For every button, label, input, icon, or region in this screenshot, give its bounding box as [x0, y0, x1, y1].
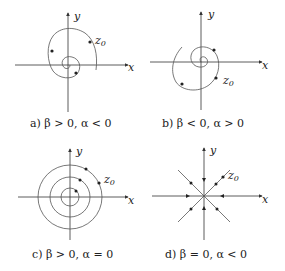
- phase-portrait-figure: x y z0 a) β > 0, α < 0 x y z0 b) β < 0, …: [0, 0, 285, 271]
- trajectory-arrow: [75, 190, 78, 193]
- caption-b: b) β < 0, α > 0: [162, 117, 244, 130]
- z0-point: [97, 181, 100, 184]
- caption-a: a) β > 0, α < 0: [30, 117, 112, 130]
- inward-arrow: [216, 208, 219, 211]
- z0-label: z0: [94, 34, 106, 48]
- z0-point: [88, 40, 91, 43]
- y-axis-label: y: [207, 8, 215, 21]
- z0-label: z0: [103, 173, 115, 187]
- inward-arrow: [190, 208, 193, 211]
- z0-point: [214, 76, 217, 79]
- panel-a: x y z0 a) β > 0, α < 0: [15, 10, 135, 130]
- spiral-inward-curve: [48, 28, 96, 77]
- inward-arrow: [220, 194, 224, 198]
- y-axis-label: y: [209, 144, 217, 157]
- inward-arrow: [202, 178, 206, 182]
- x-axis-label: x: [128, 194, 135, 207]
- x-axis-label: x: [262, 59, 269, 72]
- trajectory-arrow: [79, 179, 82, 182]
- trajectory-arrow: [85, 168, 88, 171]
- x-axis-label: x: [262, 193, 269, 206]
- y-axis-label: y: [73, 10, 81, 23]
- z0-label: z0: [227, 169, 239, 183]
- z0-label: z0: [222, 74, 234, 88]
- panel-b: x y z0 b) β < 0, α > 0: [150, 8, 269, 130]
- inward-arrow: [215, 183, 218, 186]
- panel-c: x y z0 c) β > 0, α = 0: [18, 145, 135, 261]
- caption-d: d) β = 0, α < 0: [165, 248, 247, 261]
- panel-d: x y z0 d) β = 0, α < 0: [152, 144, 269, 261]
- caption-c: c) β > 0, α = 0: [32, 248, 113, 261]
- x-axis-label: x: [128, 61, 135, 74]
- trajectory-arrow: [180, 82, 183, 85]
- inward-arrow: [202, 206, 206, 210]
- inward-arrow: [186, 194, 190, 198]
- spiral-outward-curve: [173, 47, 219, 90]
- z0-point: [221, 175, 224, 178]
- y-axis-label: y: [75, 145, 83, 158]
- inward-arrow: [190, 182, 193, 185]
- trajectory-arrow: [212, 48, 215, 51]
- trajectory-arrow: [74, 71, 77, 74]
- trajectory-arrow: [50, 49, 53, 52]
